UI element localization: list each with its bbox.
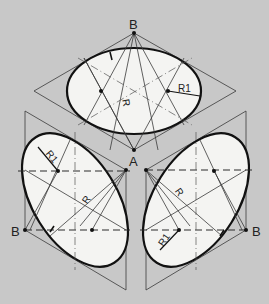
- label-top-b: B: [129, 17, 138, 32]
- top-face: B R1 R: [34, 17, 236, 152]
- label-top-r1: R1: [178, 83, 191, 94]
- right-face: B R1 R: [121, 111, 269, 290]
- label-right-b: B: [252, 224, 261, 239]
- label-left-b: B: [11, 224, 20, 239]
- right-ellipse: [121, 115, 269, 285]
- label-center-a: A: [129, 154, 138, 169]
- isometric-ellipse-diagram: B R1 R B R1 R: [0, 0, 269, 304]
